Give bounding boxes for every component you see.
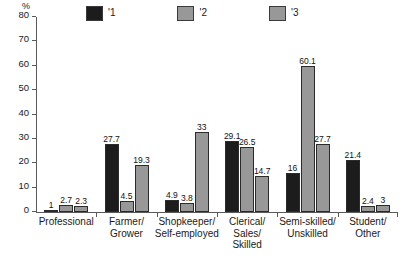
bar: 4.9 <box>165 200 179 212</box>
bar: 2.4 <box>361 206 375 212</box>
bar: 4.5 <box>120 201 134 212</box>
bar-value-label: 2.7 <box>60 196 72 205</box>
bar: 16 <box>286 173 300 212</box>
bar-value-label: 27.7 <box>314 135 331 144</box>
bar: 33 <box>195 132 209 212</box>
bar-value-label: 26.5 <box>239 138 256 147</box>
plot-area: 01020304050607080 12.72.327.74.519.34.93… <box>36 17 398 213</box>
bar-value-label: 1 <box>49 201 54 210</box>
bar: 26.5 <box>240 147 254 212</box>
y-tick: 40 <box>32 114 36 115</box>
bar-value-label: 4.9 <box>166 191 178 200</box>
y-tick-label: 70 <box>18 34 29 44</box>
y-tick-label: 40 <box>18 108 29 118</box>
bar-value-label: 27.7 <box>103 135 120 144</box>
y-tick-label: 50 <box>18 83 29 93</box>
bar-value-label: 14.7 <box>254 167 271 176</box>
bar-value-label: 60.1 <box>299 57 316 66</box>
bar-value-label: 4.5 <box>121 192 133 201</box>
y-tick-label: 20 <box>18 156 29 166</box>
category-label-line: Other <box>331 228 405 240</box>
bar: 27.7 <box>105 144 119 212</box>
bar: 29.1 <box>225 141 239 212</box>
bar: 21.4 <box>346 160 360 212</box>
y-tick-label: 80 <box>18 10 29 20</box>
y-tick: 80 <box>32 16 36 17</box>
y-tick-label: 0 <box>24 205 29 215</box>
x-axis-category-label: Student/Other <box>331 216 405 239</box>
bar-value-label: 2.3 <box>75 197 87 206</box>
bar: 27.7 <box>316 144 330 212</box>
bar-value-label: 19.3 <box>133 156 150 165</box>
bar: 2.3 <box>74 206 88 212</box>
category-label-line: Skilled <box>210 239 284 251</box>
bar-chart: % '1 '2 '3 01020304050607080 12.72.327.7… <box>0 0 405 268</box>
bar-value-label: 33 <box>197 123 206 132</box>
y-tick: 60 <box>32 65 36 66</box>
y-tick: 20 <box>32 162 36 163</box>
bar-value-label: 2.4 <box>362 197 374 206</box>
y-axis-line <box>36 17 37 213</box>
bar: 3.8 <box>180 203 194 212</box>
bar-value-label: 3 <box>380 196 385 205</box>
y-tick-label: 10 <box>18 181 29 191</box>
y-tick: 70 <box>32 40 36 41</box>
bar-value-label: 16 <box>288 164 297 173</box>
bar: 14.7 <box>255 176 269 212</box>
y-tick-label: 60 <box>18 59 29 69</box>
bar: 2.7 <box>59 205 73 212</box>
bar-value-label: 21.4 <box>345 151 362 160</box>
bar-value-label: 3.8 <box>181 194 193 203</box>
y-tick: 50 <box>32 89 36 90</box>
y-tick-label: 30 <box>18 132 29 142</box>
bar: 60.1 <box>301 66 315 212</box>
bar: 3 <box>376 205 390 212</box>
y-tick: 10 <box>32 187 36 188</box>
y-tick: 0 <box>32 211 36 212</box>
bar: 1 <box>44 210 58 212</box>
category-label-line: Student/ <box>331 216 405 228</box>
bar: 19.3 <box>135 165 149 212</box>
y-tick: 30 <box>32 138 36 139</box>
x-axis-category-labels: ProfessionalFarmer/GrowerShopkeeper/Self… <box>36 216 398 268</box>
